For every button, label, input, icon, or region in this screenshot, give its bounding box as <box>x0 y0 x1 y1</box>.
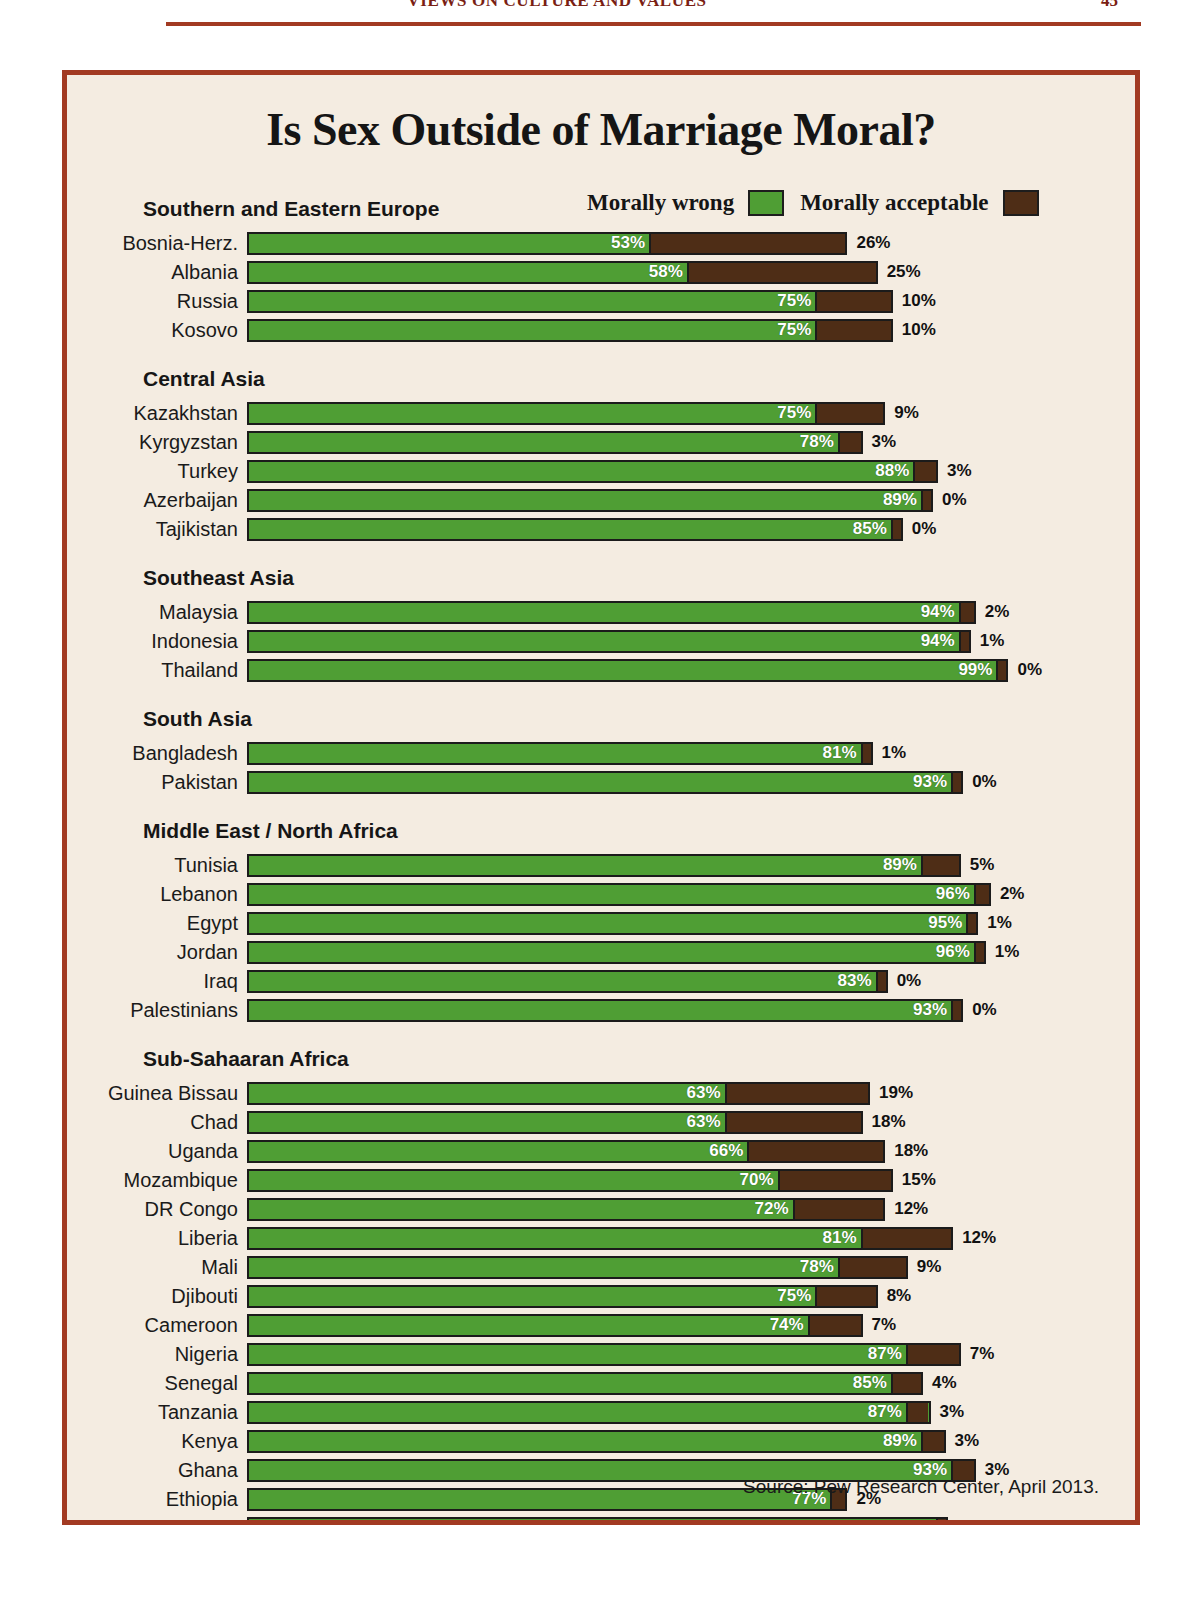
bar-area: 70%15% <box>247 1169 1135 1192</box>
bar-segment-morally-wrong: 96% <box>249 885 974 904</box>
running-head-text: VIEWS ON CULTURE AND VALUES <box>0 0 1204 11</box>
page-running-header: VIEWS ON CULTURE AND VALUES 45 <box>0 0 1204 30</box>
chart-row: Senegal85%4% <box>67 1370 1135 1396</box>
country-label: Senegal <box>67 1372 247 1395</box>
country-label: Ghana <box>67 1459 247 1482</box>
bar-segment-morally-wrong: 88% <box>249 462 913 481</box>
bar-area: 96%1% <box>247 941 1135 964</box>
bar-segment-morally-wrong: 89% <box>249 856 921 875</box>
group-title: Central Asia <box>67 367 1135 391</box>
chart-row: Albania58%25% <box>67 259 1135 285</box>
country-label: Jordan <box>67 941 247 964</box>
bar-segment-morally-wrong: 53% <box>249 234 649 253</box>
bar-area: 63%19% <box>247 1082 1135 1105</box>
bar-segment-morally-acceptable <box>936 1519 946 1521</box>
value-label-morally-acceptable: 4% <box>932 1373 957 1393</box>
country-label: Cameroon <box>67 1314 247 1337</box>
bar-segment-morally-acceptable <box>861 1229 952 1248</box>
country-label: Palestinians <box>67 999 247 1022</box>
value-label-morally-acceptable: 3% <box>940 1402 965 1422</box>
source-note: Source: Pew Research Center, April 2013. <box>743 1476 1099 1498</box>
bar-area: 88%3% <box>247 460 1135 483</box>
stacked-bar: 87% <box>247 1343 961 1366</box>
chart-row: Djibouti75%8% <box>67 1283 1135 1309</box>
value-label-morally-acceptable: 9% <box>894 403 919 423</box>
country-label: Kenya <box>67 1430 247 1453</box>
bar-area: 94%1% <box>247 630 1135 653</box>
bar-area: 75%9% <box>247 402 1135 425</box>
value-label-morally-acceptable: 10% <box>902 320 936 340</box>
chart-row: Iraq83%0% <box>67 968 1135 994</box>
bar-segment-morally-wrong: 70% <box>249 1171 778 1190</box>
value-label-morally-acceptable: 0% <box>1017 660 1042 680</box>
value-label-morally-wrong: 63% <box>687 1083 721 1103</box>
value-label-morally-wrong: 70% <box>739 1170 773 1190</box>
country-label: Guinea Bissau <box>67 1082 247 1105</box>
value-label-morally-wrong: 89% <box>883 855 917 875</box>
value-label-morally-wrong: 75% <box>777 403 811 423</box>
bar-segment-morally-acceptable <box>815 1287 875 1306</box>
bar-area: 87%7% <box>247 1343 1135 1366</box>
bar-area: 75%10% <box>247 290 1135 313</box>
page-number: 45 <box>1101 0 1118 11</box>
value-label-morally-acceptable: 8% <box>887 1286 912 1306</box>
bar-segment-morally-wrong: 75% <box>249 404 815 423</box>
country-label: Kazakhstan <box>67 402 247 425</box>
stacked-bar: 88% <box>247 460 938 483</box>
chart-row: Azerbaijan89%0% <box>67 487 1135 513</box>
chart-group: Central AsiaKazakhstan75%9%Kyrgyzstan78%… <box>67 367 1135 542</box>
value-label-morally-acceptable: 12% <box>962 1228 996 1248</box>
bar-area: 75%10% <box>247 319 1135 342</box>
value-label-morally-acceptable: 19% <box>879 1083 913 1103</box>
stacked-bar: 93% <box>247 999 963 1022</box>
country-label: Lebanon <box>67 883 247 906</box>
bar-segment-morally-acceptable <box>725 1084 868 1103</box>
value-label-morally-wrong: 87% <box>868 1402 902 1422</box>
bar-area: 96%2% <box>247 883 1135 906</box>
bar-segment-morally-acceptable <box>793 1200 884 1219</box>
stacked-bar: 91% <box>247 1517 948 1521</box>
chart-row: Mali78%9% <box>67 1254 1135 1280</box>
country-label: Azerbaijan <box>67 489 247 512</box>
value-label-morally-acceptable: 1% <box>957 1518 982 1520</box>
bar-area: 83%0% <box>247 970 1135 993</box>
value-label-morally-acceptable: 10% <box>902 291 936 311</box>
value-label-morally-acceptable: 0% <box>942 490 967 510</box>
country-label: Kyrgyzstan <box>67 431 247 454</box>
running-head-title: VIEWS ON CULTURE AND VALUES <box>407 0 706 10</box>
chart-row: Tanzania87%3% <box>67 1399 1135 1425</box>
value-label-morally-acceptable: 26% <box>856 233 890 253</box>
bar-segment-morally-wrong: 95% <box>249 914 966 933</box>
bar-segment-morally-wrong: 83% <box>249 972 876 991</box>
chart-row: Tunisia89%5% <box>67 852 1135 878</box>
country-label: Thailand <box>67 659 247 682</box>
bar-segment-morally-wrong: 89% <box>249 491 921 510</box>
bar-segment-morally-wrong: 81% <box>249 1229 861 1248</box>
chart-row: Malaysia94%2% <box>67 599 1135 625</box>
chart-row: Indonesia94%1% <box>67 628 1135 654</box>
value-label-morally-acceptable: 25% <box>887 262 921 282</box>
bar-area: 93%0% <box>247 999 1135 1022</box>
value-label-morally-acceptable: 3% <box>872 432 897 452</box>
country-label: Bangladesh <box>67 742 247 765</box>
country-label: Chad <box>67 1111 247 1134</box>
country-label: Albania <box>67 261 247 284</box>
value-label-morally-acceptable: 18% <box>894 1141 928 1161</box>
chart-row: Turkey88%3% <box>67 458 1135 484</box>
bar-segment-morally-wrong: 78% <box>249 433 838 452</box>
bar-segment-morally-acceptable <box>876 972 886 991</box>
bar-segment-morally-wrong: 63% <box>249 1113 725 1132</box>
bar-segment-morally-wrong: 75% <box>249 321 815 340</box>
bar-segment-morally-wrong: 66% <box>249 1142 747 1161</box>
stacked-bar: 81% <box>247 742 873 765</box>
bar-segment-morally-wrong: 81% <box>249 744 861 763</box>
chart-row: Jordan96%1% <box>67 939 1135 965</box>
value-label-morally-wrong: 66% <box>709 1141 743 1161</box>
bar-segment-morally-acceptable <box>838 1258 906 1277</box>
bar-segment-morally-wrong: 72% <box>249 1200 793 1219</box>
country-label: Niger <box>67 1517 247 1521</box>
chart-row: Liberia81%12% <box>67 1225 1135 1251</box>
country-label: Ethiopia <box>67 1488 247 1511</box>
stacked-bar: 63% <box>247 1111 863 1134</box>
bar-area: 89%0% <box>247 489 1135 512</box>
